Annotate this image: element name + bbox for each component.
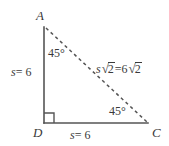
side-label-ac-hypotenuse: s√2=6√2	[96, 62, 142, 75]
side-ad-value: = 6	[16, 65, 32, 79]
angle-label-a: 45°	[48, 47, 65, 59]
radical-expression-right: √2	[128, 62, 142, 75]
angle-label-c: 45°	[109, 105, 126, 117]
radicand-right: 2	[135, 62, 142, 75]
geometry-figure: A D C 45° 45° s= 6 s= 6 s√2=6√2	[0, 0, 169, 146]
vertex-label-d: D	[33, 126, 42, 139]
vertex-label-c: C	[152, 126, 161, 139]
radicand-left: 2	[108, 62, 115, 75]
radical-expression-left: √2	[101, 62, 115, 75]
side-dc-value: = 6	[75, 128, 91, 142]
right-angle-marker-icon	[44, 113, 54, 123]
side-label-dc: s= 6	[70, 129, 90, 141]
hypotenuse-equals-sign: =	[115, 62, 122, 76]
side-label-ad: s= 6	[11, 66, 31, 78]
vertex-label-a: A	[36, 9, 44, 22]
